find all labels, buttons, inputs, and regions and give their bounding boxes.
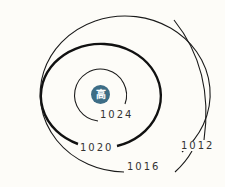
- isobar-label-1012: 1012: [181, 141, 214, 151]
- high-pressure-badge: 高: [91, 85, 110, 104]
- isobar-label-1016: 1016: [127, 162, 160, 172]
- isobar-1012: [174, 20, 206, 140]
- isobar-label-1020: 1020: [80, 143, 113, 153]
- isobar-label-1024: 1024: [100, 110, 133, 120]
- isobar-1012-tail: [175, 151, 192, 172]
- isobar-map: [0, 0, 225, 187]
